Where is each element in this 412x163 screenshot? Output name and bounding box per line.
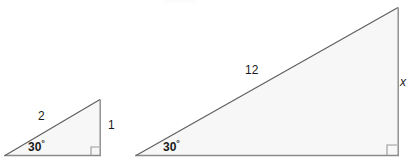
- small-triangle-degree-symbol: °: [41, 138, 45, 148]
- large-right-triangle: [135, 8, 399, 157]
- large-triangle-leg-label: x: [400, 76, 406, 88]
- small-triangle-leg-label: 1: [108, 119, 115, 131]
- large-triangle-hypotenuse-label: 12: [245, 64, 258, 76]
- large-triangle-angle-label: 30°: [163, 139, 180, 153]
- small-triangle-angle-label: 30°: [28, 139, 45, 153]
- small-right-triangle: [4, 100, 101, 157]
- large-triangle-angle-value: 30: [163, 140, 176, 154]
- triangles-svg: [0, 0, 412, 163]
- small-triangle-angle-value: 30: [28, 140, 41, 154]
- large-triangle-degree-symbol: °: [176, 138, 180, 148]
- small-triangle-hypotenuse-label: 2: [38, 110, 45, 122]
